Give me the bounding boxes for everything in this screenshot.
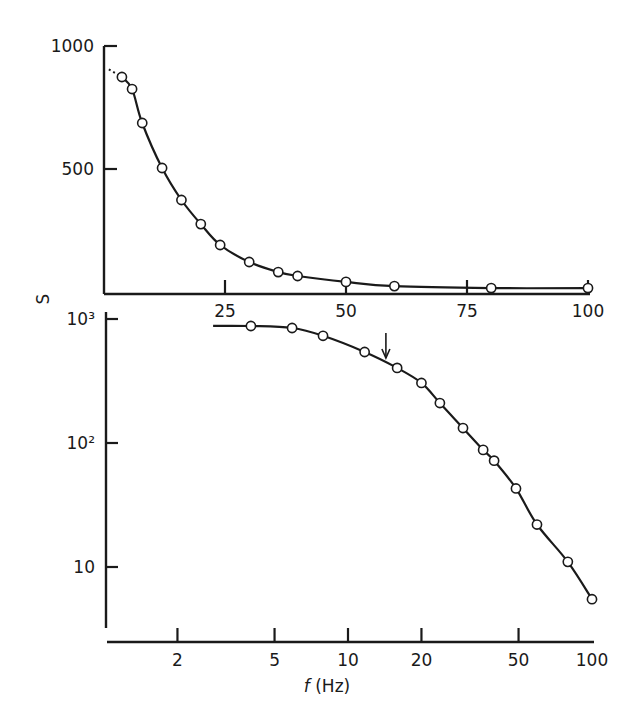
- data-point: [318, 331, 327, 340]
- data-point: [563, 557, 572, 566]
- x-tick-label: 2: [172, 650, 183, 670]
- data-point: [360, 347, 369, 356]
- data-point: [287, 323, 296, 332]
- y-tick-label: 10: [73, 557, 95, 577]
- y-tick-label: 10²: [67, 433, 95, 453]
- data-point: [393, 363, 402, 372]
- top-y-ticks: 5001000: [51, 36, 117, 179]
- top-y-axis: [104, 46, 590, 294]
- x-tick-label: 5: [269, 650, 280, 670]
- data-point: [138, 118, 147, 127]
- data-point: [196, 220, 205, 229]
- data-point: [216, 240, 225, 249]
- data-point: [490, 456, 499, 465]
- data-point: [341, 277, 350, 286]
- x-axis-title: f (Hz): [304, 676, 350, 696]
- y-tick-label: 1000: [51, 36, 94, 56]
- x-tick-label: 50: [335, 301, 357, 321]
- x-tick-label: 100: [572, 301, 604, 321]
- top-linear-plot: 5001000 255075100: [51, 36, 604, 321]
- data-point: [417, 378, 426, 387]
- y-axis-title: S: [33, 294, 53, 305]
- figure: 5001000 255075100 S 1010²10³ 25102050100…: [0, 0, 640, 722]
- bottom-fit-curve: [213, 326, 592, 599]
- data-point: [127, 84, 136, 93]
- x-tick-label: 100: [576, 650, 608, 670]
- top-fit-curve: [122, 77, 588, 288]
- data-point: [479, 445, 488, 454]
- data-point: [487, 283, 496, 292]
- data-point: [274, 267, 283, 276]
- data-point: [157, 163, 166, 172]
- data-point: [532, 520, 541, 529]
- data-point: [583, 283, 592, 292]
- arrow-annotation-icon: [382, 333, 390, 358]
- x-tick-label: 20: [411, 650, 433, 670]
- y-tick-label: 500: [62, 159, 94, 179]
- data-point: [245, 257, 254, 266]
- bottom-log-plot: 1010²10³ 25102050100: [67, 309, 609, 670]
- top-data-markers: [117, 72, 592, 292]
- x-axis-unit: (Hz): [310, 676, 350, 696]
- data-point: [177, 195, 186, 204]
- bottom-data-markers: [246, 321, 596, 603]
- x-tick-label: 25: [214, 301, 236, 321]
- data-point: [511, 484, 520, 493]
- y-tick-label: 10³: [67, 309, 95, 329]
- data-point: [390, 281, 399, 290]
- data-point: [458, 423, 467, 432]
- x-tick-label: 50: [508, 650, 530, 670]
- data-point: [587, 595, 596, 604]
- data-point: [246, 321, 255, 330]
- x-tick-label: 75: [456, 301, 478, 321]
- data-point: [117, 72, 126, 81]
- data-point: [435, 398, 444, 407]
- bottom-x-ticks: 25102050100: [172, 628, 608, 670]
- chart-canvas: 5001000 255075100 S 1010²10³ 25102050100…: [0, 0, 640, 722]
- bottom-y-ticks: 1010²10³: [67, 309, 118, 577]
- x-tick-label: 10: [337, 650, 359, 670]
- data-point: [293, 271, 302, 280]
